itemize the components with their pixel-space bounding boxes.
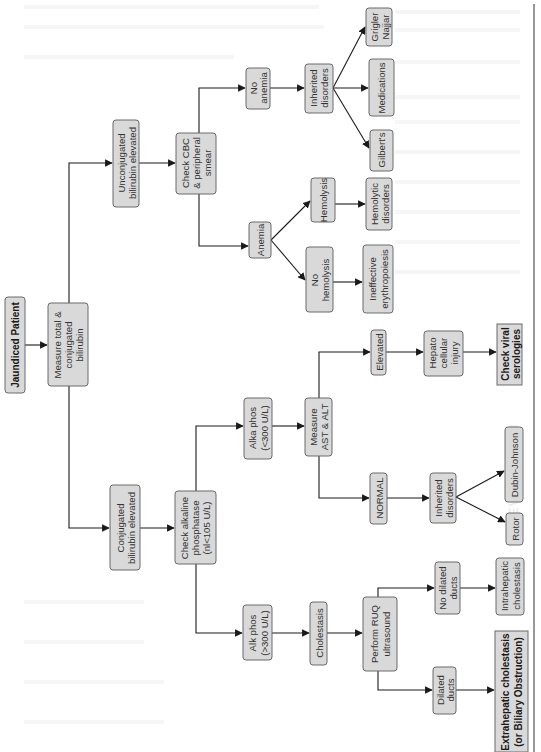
svg-text:Gilbert's: Gilbert's — [376, 132, 387, 167]
svg-text:Perform RUQ: Perform RUQ — [369, 605, 380, 663]
svg-text:Intrahepatic: Intrahepatic — [499, 561, 510, 611]
svg-text:Hemolysis: Hemolysis — [318, 178, 329, 222]
svg-text:injury: injury — [449, 341, 460, 364]
svg-text:Measure total &: Measure total & — [52, 311, 63, 379]
node-ineffective-erythropoiesis: Ineffective erythropoiesis — [363, 245, 393, 313]
svg-text:NORMAL: NORMAL — [374, 477, 385, 519]
node-perform-ruq-ultrasound: Perform RUQ ultrasound — [363, 597, 397, 671]
svg-text:Rotor: Rotor — [510, 516, 521, 540]
node-rotor: Rotor — [506, 513, 523, 545]
node-normal: NORMAL — [370, 473, 387, 524]
svg-text:Conjugated: Conjugated — [115, 503, 126, 552]
node-medications: Medications — [369, 59, 394, 116]
svg-text:Measure: Measure — [308, 408, 319, 445]
svg-text:No dilated: No dilated — [437, 566, 448, 609]
node-cholestasis: Cholestasis — [310, 602, 327, 665]
svg-text:bilirubin elevated: bilirubin elevated — [126, 492, 137, 564]
svg-text:(<300 U/L): (<300 U/L) — [259, 405, 270, 451]
svg-text:ducts: ducts — [448, 576, 459, 599]
svg-text:Alk phos: Alk phos — [247, 614, 258, 651]
node-elevated: Elevated — [371, 330, 386, 375]
node-measure-ast-alt: Measure AST & ALT — [305, 398, 332, 456]
node-grigler-najjar: Grigler Najjar — [366, 8, 392, 46]
svg-text:cellular: cellular — [438, 337, 449, 368]
svg-text:Anemia: Anemia — [255, 223, 266, 256]
node-hemolytic-disorders: Hemolytic disorders — [366, 178, 392, 230]
svg-text:Inherited: Inherited — [433, 479, 444, 516]
svg-text:Medications: Medications — [376, 62, 387, 113]
svg-text:Dubin-Johnson: Dubin-Johnson — [509, 433, 520, 498]
svg-text:Cholestasis: Cholestasis — [314, 608, 325, 658]
node-check-alkaline-phosphatase: Check alkaline phosphatase (nl<105 U/L) — [175, 491, 216, 564]
svg-text:& peripheral: & peripheral — [191, 137, 202, 189]
node-no-anemia: No anemia — [246, 68, 270, 109]
svg-text:anemia: anemia — [258, 72, 269, 104]
svg-text:Inherited: Inherited — [308, 69, 319, 106]
node-gilberts: Gilbert's — [370, 130, 393, 171]
svg-text:Alka phos: Alka phos — [247, 407, 258, 449]
svg-text:erythropoiesis: erythropoiesis — [379, 249, 390, 309]
node-dilated-ducts: Dilated ducts — [433, 667, 456, 714]
node-intrahepatic-cholestasis: Intrahepatic cholestasis — [496, 558, 524, 615]
node-inherited-disorders-unconjugated: Inherited disorders — [305, 64, 333, 113]
svg-text:hemolysis: hemolysis — [320, 258, 331, 301]
svg-text:Hepato: Hepato — [427, 338, 438, 369]
svg-text:ducts: ducts — [445, 678, 456, 701]
node-hemolysis: Hemolysis — [311, 178, 335, 222]
svg-text:No: No — [309, 274, 320, 286]
svg-text:conjugated: conjugated — [63, 322, 74, 369]
svg-text:bilirubin elevated: bilirubin elevated — [127, 127, 138, 199]
node-measure-bilirubin: Measure total & conjugated bilirubin — [48, 303, 88, 386]
svg-text:Hemolytic: Hemolytic — [369, 183, 380, 225]
node-anemia: Anemia — [249, 222, 271, 258]
jaundice-flowchart: EVALUATION — [0, 0, 541, 752]
node-hepatocellular-injury: Hepato cellular injury — [424, 331, 463, 376]
node-no-dilated-ducts: No dilated ducts — [435, 562, 460, 614]
node-conjugated-elevated: Conjugated bilirubin elevated — [110, 485, 140, 570]
svg-text:cholestasis: cholestasis — [511, 562, 522, 610]
svg-text:(nl<105 U/L): (nl<105 U/L) — [201, 501, 212, 554]
svg-text:Jaundiced Patient: Jaundiced Patient — [10, 302, 21, 388]
node-alk-phos-high: Alk phos (>300 U/L) — [243, 605, 272, 660]
svg-text:smear: smear — [202, 149, 213, 176]
svg-text:ultrasound: ultrasound — [381, 612, 392, 657]
node-dubin-johnson: Dubin-Johnson — [505, 427, 523, 502]
svg-text:Check viral: Check viral — [500, 327, 511, 381]
svg-text:phosphatase: phosphatase — [190, 501, 201, 556]
node-alka-phos-low: Alka phos (<300 U/L) — [244, 398, 272, 459]
svg-text:Unconjugated: Unconjugated — [116, 133, 127, 192]
svg-text:Check CBC: Check CBC — [180, 138, 191, 188]
node-check-viral-serologies: Check viral serologies — [497, 324, 522, 385]
svg-text:(or Biliary Obstruction): (or Biliary Obstruction) — [513, 637, 524, 746]
svg-text:disorders: disorders — [319, 68, 330, 108]
svg-text:Najjar: Najjar — [380, 14, 391, 40]
node-unconjugated-elevated: Unconjugated bilirubin elevated — [113, 120, 139, 207]
node-extrahepatic-cholestasis: Extrahepatic cholestasis (or Biliary Obs… — [495, 631, 528, 752]
svg-text:Extrahepatic cholestasis: Extrahepatic cholestasis — [500, 633, 511, 751]
svg-text:Grigler: Grigler — [369, 12, 380, 42]
svg-text:bilirubin: bilirubin — [74, 328, 85, 361]
svg-text:disorders: disorders — [380, 184, 391, 224]
svg-text:AST & ALT: AST & ALT — [319, 404, 330, 451]
svg-text:Check alkaline: Check alkaline — [179, 497, 190, 559]
node-no-hemolysis: No hemolysis — [306, 247, 333, 312]
node-inherited-disorders-conjugated: Inherited disorders — [430, 473, 456, 523]
svg-text:disorders: disorders — [444, 478, 455, 518]
node-jaundiced-patient: Jaundiced Patient — [5, 297, 25, 393]
svg-text:serologies: serologies — [511, 329, 522, 379]
svg-text:Elevated: Elevated — [374, 333, 385, 370]
svg-text:(>300 U/L): (>300 U/L) — [259, 610, 270, 656]
node-check-cbc: Check CBC & peripheral smear — [176, 133, 216, 194]
svg-text:Ineffective: Ineffective — [367, 257, 378, 301]
